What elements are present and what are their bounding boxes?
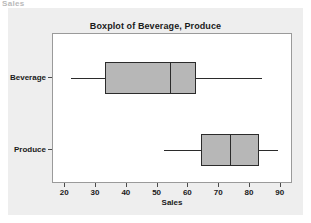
scan-top-text-fragment: Sales <box>2 0 48 6</box>
x-tick-label-90: 90 <box>270 188 290 197</box>
x-tick-90 <box>280 183 281 187</box>
median-beverage <box>170 62 171 94</box>
x-tick-label-70: 70 <box>208 188 228 197</box>
whisker-high-beverage <box>196 78 262 79</box>
whisker-low-beverage <box>71 78 105 79</box>
x-tick-80 <box>249 183 250 187</box>
boxplot-figure-panel: Boxplot of Beverage, Produce Beverage Pr… <box>8 8 303 215</box>
x-tick-label-40: 40 <box>116 188 136 197</box>
x-tick-label-30: 30 <box>85 188 105 197</box>
x-tick-label-80: 80 <box>239 188 259 197</box>
x-tick-label-20: 20 <box>54 188 74 197</box>
median-produce <box>230 134 231 166</box>
x-tick-label-50: 50 <box>147 188 167 197</box>
x-tick-label-60: 60 <box>177 188 197 197</box>
x-tick-50 <box>157 183 158 187</box>
category-label-produce: Produce <box>8 145 46 154</box>
whisker-low-produce <box>164 150 201 151</box>
x-axis-title: Sales <box>52 198 292 207</box>
x-tick-70 <box>218 183 219 187</box>
box-beverage <box>105 62 196 94</box>
x-tick-20 <box>64 183 65 187</box>
plot-inner-canvas <box>53 34 291 182</box>
plot-area <box>52 33 292 183</box>
x-tick-40 <box>126 183 127 187</box>
chart-title: Boxplot of Beverage, Produce <box>8 21 303 31</box>
whisker-high-produce <box>259 150 277 151</box>
category-label-beverage: Beverage <box>8 73 46 82</box>
x-tick-30 <box>95 183 96 187</box>
x-tick-60 <box>187 183 188 187</box>
